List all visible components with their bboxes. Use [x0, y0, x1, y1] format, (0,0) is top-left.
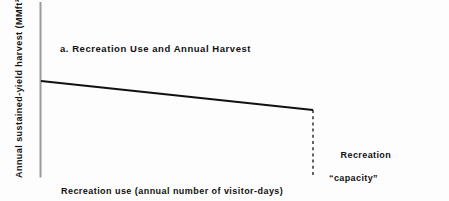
- recreation-capacity-annotation: Recreation “capacity”: [329, 139, 391, 201]
- page-title: a. Recreation Use and Annual Harvest: [60, 43, 251, 55]
- x-axis-label: Recreation use (annual number of visitor…: [61, 186, 283, 197]
- figure-container: a. Recreation Use and Annual Harvest Ann…: [0, 0, 449, 201]
- capacity-annotation-line-1: Recreation: [341, 150, 392, 160]
- harvest-curve: [41, 81, 313, 110]
- y-axis-label: Annual sustained-yield harvest (MMft³): [14, 0, 28, 178]
- capacity-annotation-line-2: “capacity”: [329, 173, 391, 184]
